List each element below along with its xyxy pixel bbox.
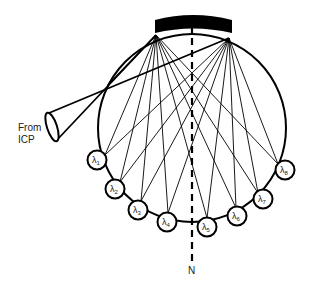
source-label-from: From: [18, 122, 41, 133]
normal-axis-label: N: [188, 265, 195, 276]
entrance-lens: [43, 111, 62, 143]
source-label-icp: ICP: [18, 134, 35, 145]
diffraction-grating: [155, 15, 232, 33]
polychromator-diagram: From ICP N λ1λ2λ3λ4λ5λ6λ7λ8: [0, 0, 309, 287]
